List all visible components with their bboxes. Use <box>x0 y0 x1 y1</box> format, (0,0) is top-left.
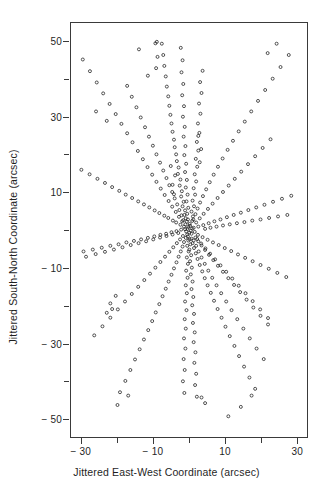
data-point <box>200 256 203 259</box>
data-point <box>163 194 166 197</box>
data-point <box>230 250 233 253</box>
data-point <box>231 139 234 142</box>
data-point <box>192 341 195 344</box>
data-point <box>120 122 123 125</box>
data-point <box>105 119 108 122</box>
data-point <box>225 270 228 273</box>
data-point <box>183 125 186 128</box>
data-point <box>201 195 204 198</box>
data-point <box>194 193 197 196</box>
data-point <box>142 203 145 206</box>
data-point <box>171 205 174 208</box>
data-point <box>279 66 282 69</box>
data-point <box>177 255 180 258</box>
data-point <box>112 248 115 251</box>
data-point <box>196 122 199 125</box>
data-point <box>101 325 104 328</box>
data-point <box>181 235 184 238</box>
data-point <box>117 243 120 246</box>
data-point <box>250 394 253 397</box>
data-point <box>186 212 189 215</box>
data-point <box>184 223 187 226</box>
data-point <box>267 317 270 320</box>
data-point <box>130 95 133 98</box>
data-point <box>204 227 207 230</box>
data-point <box>200 92 203 95</box>
data-point <box>88 173 91 176</box>
data-point <box>193 230 196 233</box>
data-point <box>184 145 187 148</box>
data-point <box>195 395 198 398</box>
data-point <box>244 292 247 295</box>
data-point <box>177 232 180 235</box>
data-point <box>200 396 203 399</box>
data-point <box>164 75 167 78</box>
data-point <box>184 236 187 239</box>
data-point <box>148 206 151 209</box>
data-point <box>158 212 161 215</box>
data-point <box>121 246 124 249</box>
data-point <box>179 46 182 49</box>
data-point <box>168 104 171 107</box>
data-point <box>151 144 154 147</box>
y-tick-mark <box>64 230 69 231</box>
data-point <box>94 253 97 256</box>
data-point <box>130 292 133 295</box>
data-point <box>216 197 219 200</box>
data-point <box>185 309 188 312</box>
data-point <box>237 130 240 133</box>
data-point <box>187 206 190 209</box>
data-point <box>230 309 233 312</box>
data-point <box>206 207 209 210</box>
data-point <box>181 245 184 248</box>
data-point <box>154 311 157 314</box>
data-point <box>221 157 224 160</box>
data-point <box>267 267 270 270</box>
data-point <box>240 170 243 173</box>
data-point <box>135 106 138 109</box>
data-point <box>172 246 175 249</box>
data-point <box>125 241 128 244</box>
data-point <box>184 300 187 303</box>
y-tick-label: 10 <box>50 187 62 198</box>
data-point <box>174 174 177 177</box>
y-tick-label: − 50 <box>41 414 62 425</box>
data-point <box>195 140 198 143</box>
data-point <box>231 277 234 280</box>
data-point <box>184 186 187 189</box>
data-point <box>221 270 224 273</box>
data-point <box>239 405 242 408</box>
data-point <box>118 189 121 192</box>
data-point <box>243 365 246 368</box>
data-point <box>181 59 184 62</box>
data-point <box>216 165 219 168</box>
data-point <box>109 316 112 319</box>
data-point <box>193 205 196 208</box>
data-point <box>213 299 216 302</box>
data-point <box>164 255 167 258</box>
data-point <box>290 194 293 197</box>
data-point <box>243 221 246 224</box>
data-point <box>262 358 265 361</box>
data-point <box>236 253 239 256</box>
data-point <box>257 99 260 102</box>
data-point <box>211 241 214 244</box>
data-point <box>182 135 185 138</box>
data-point <box>184 347 187 350</box>
data-point <box>188 222 191 225</box>
data-point <box>164 287 167 290</box>
data-point <box>165 85 168 88</box>
data-point <box>181 205 184 208</box>
data-point <box>191 215 194 218</box>
data-point <box>267 323 270 326</box>
data-point <box>186 276 189 279</box>
data-point <box>215 225 218 228</box>
data-point <box>180 195 183 198</box>
data-point <box>160 42 163 45</box>
data-point <box>228 223 231 226</box>
x-tick-mark <box>225 438 226 444</box>
x-tick-label: 10 <box>219 446 231 457</box>
data-point <box>171 219 174 222</box>
data-point <box>198 102 201 105</box>
data-point <box>233 344 236 347</box>
